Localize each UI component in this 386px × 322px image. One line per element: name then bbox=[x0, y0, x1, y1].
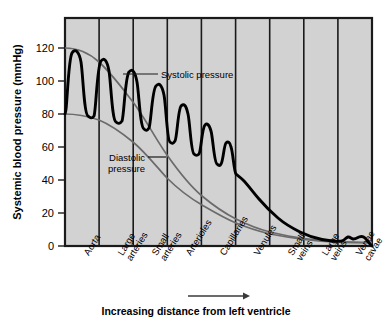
direction-arrow-icon bbox=[188, 293, 250, 300]
y-tick-label-60: 60 bbox=[42, 141, 54, 153]
systolic-annotation-label: Systolic pressure bbox=[161, 69, 233, 80]
x-axis-title: Increasing distance from left ventricle bbox=[101, 305, 290, 317]
y-tick-label-0: 0 bbox=[48, 240, 54, 252]
y-tick-label-100: 100 bbox=[36, 75, 54, 87]
diastolic-annotation-label-line1: Diastolic bbox=[109, 152, 145, 163]
diastolic-annotation-label-line2: pressure bbox=[108, 163, 145, 174]
blood-pressure-figure: 120 100 80 60 40 20 0 Systemic blood pre… bbox=[0, 0, 386, 322]
chart-canvas: 120 100 80 60 40 20 0 Systemic blood pre… bbox=[0, 0, 386, 322]
y-tick-label-80: 80 bbox=[42, 108, 54, 120]
y-tick-label-20: 20 bbox=[42, 207, 54, 219]
y-axis-title: Systemic blood pressure (mmHg) bbox=[11, 44, 23, 220]
plot-background bbox=[65, 18, 372, 246]
y-tick-labels: 120 100 80 60 40 20 0 bbox=[36, 42, 54, 252]
y-tick-label-120: 120 bbox=[36, 42, 54, 54]
y-tick-label-40: 40 bbox=[42, 174, 54, 186]
